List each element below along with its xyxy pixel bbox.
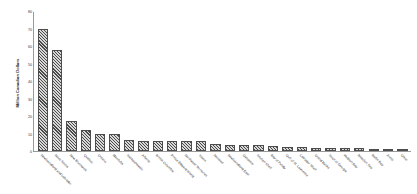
- x-label-slot: Hudson Bay: [337, 153, 351, 194]
- x-label-slot: Beaufort Sea: [352, 153, 366, 194]
- y-tick-label: 20: [18, 115, 32, 119]
- x-label-slot: Northwest Territories: [179, 153, 193, 194]
- y-tick-label: 50: [18, 63, 32, 67]
- x-label-slot: Baffin Bay: [366, 153, 380, 194]
- bar-chart-figure: Million Canadian Dollars 010203040506070…: [0, 0, 417, 194]
- bar[interactable]: [297, 147, 307, 151]
- bar[interactable]: [239, 145, 249, 151]
- x-label-slot: Manitoba: [107, 153, 121, 194]
- x-label-slot: Labrador Shelf: [294, 153, 308, 194]
- bar[interactable]: [196, 141, 206, 151]
- bar-slot: [179, 12, 193, 151]
- bar-slot: [208, 12, 222, 151]
- bar-slot: [50, 12, 64, 151]
- bar-slot: [395, 12, 409, 151]
- bar-slot: [93, 12, 107, 151]
- x-label-slot: Arctic: [381, 153, 395, 194]
- x-label-slot: Ontario: [92, 153, 106, 194]
- x-label-slot: Prince Edward Island: [164, 153, 178, 194]
- bar-slot: [136, 12, 150, 151]
- bar[interactable]: [397, 149, 407, 151]
- bar[interactable]: [167, 141, 177, 151]
- x-tick-label: Alberta: [140, 154, 150, 164]
- x-label-slot: New Brunswick: [63, 153, 77, 194]
- bar[interactable]: [268, 146, 278, 151]
- x-label-slot: Other: [395, 153, 409, 194]
- bar[interactable]: [52, 50, 62, 151]
- x-label-slot: Newfoundland East: [222, 153, 236, 194]
- x-label-slot: Grand Banks: [309, 153, 323, 194]
- x-label-slot: Gulf of St. Lawrence: [280, 153, 294, 194]
- bar-slot: [79, 12, 93, 151]
- bar-slot: [36, 12, 50, 151]
- x-label-slot: Bay of Fundy: [265, 153, 279, 194]
- bar[interactable]: [354, 148, 364, 151]
- bar-slot: [237, 12, 251, 151]
- bar-slot: [309, 12, 323, 151]
- bar[interactable]: [210, 144, 220, 151]
- y-tick-label: 40: [18, 80, 32, 84]
- bar[interactable]: [81, 130, 91, 151]
- x-tick-label: Arctic: [385, 154, 393, 162]
- x-label-slot: Nova Scotia: [49, 153, 63, 194]
- bar-slot: [165, 12, 179, 151]
- bar-slot: [381, 12, 395, 151]
- bar-slot: [366, 12, 380, 151]
- bar-slot: [352, 12, 366, 151]
- bar-slot: [107, 12, 121, 151]
- bar[interactable]: [153, 141, 163, 151]
- y-tick-label: 30: [18, 98, 32, 102]
- bars-layer: [34, 12, 411, 151]
- bar-slot: [295, 12, 309, 151]
- bar-slot: [280, 12, 294, 151]
- bar[interactable]: [181, 141, 191, 151]
- bar-slot: [64, 12, 78, 151]
- x-label-slot: British Columbia: [150, 153, 164, 194]
- x-axis-tick-labels: Newfoundland and LabradorNova ScotiaNew …: [33, 153, 411, 194]
- bar-slot: [251, 12, 265, 151]
- bar[interactable]: [253, 145, 263, 151]
- bar[interactable]: [38, 29, 48, 151]
- bar[interactable]: [369, 149, 379, 151]
- x-label-slot: Gaspesie: [236, 153, 250, 194]
- y-tick-label: 0: [18, 150, 32, 154]
- bar-slot: [223, 12, 237, 151]
- bar[interactable]: [325, 148, 335, 151]
- x-tick-label: Other: [400, 154, 408, 162]
- x-label-slot: Scotian Shelf: [251, 153, 265, 194]
- y-axis-tick-labels: 01020304050607080: [18, 12, 32, 152]
- bar[interactable]: [340, 148, 350, 151]
- x-label-slot: Saskatchewan: [121, 153, 135, 194]
- bar[interactable]: [138, 141, 148, 151]
- x-label-slot: Yukon: [193, 153, 207, 194]
- bar-slot: [122, 12, 136, 151]
- x-tick-label: Ontario: [97, 154, 107, 164]
- bar-slot: [323, 12, 337, 151]
- x-label-slot: Nunavut: [208, 153, 222, 194]
- bar[interactable]: [282, 147, 292, 151]
- bar-slot: [194, 12, 208, 151]
- bar-slot: [266, 12, 280, 151]
- plot-area: [33, 12, 411, 152]
- y-tick-label: 10: [18, 133, 32, 137]
- x-tick-label: Yukon: [198, 154, 207, 163]
- bar[interactable]: [124, 140, 134, 151]
- x-label-slot: Newfoundland and Labrador: [35, 153, 49, 194]
- bar[interactable]: [383, 149, 393, 151]
- x-label-slot: Alberta: [135, 153, 149, 194]
- bar[interactable]: [109, 134, 119, 151]
- bar[interactable]: [311, 148, 321, 151]
- bar[interactable]: [66, 121, 76, 151]
- y-tick-label: 70: [18, 28, 32, 32]
- x-label-slot: Quebec: [78, 153, 92, 194]
- y-tick-label: 60: [18, 45, 32, 49]
- bar[interactable]: [95, 134, 105, 151]
- x-label-slot: Strait of Georgia: [323, 153, 337, 194]
- bar-slot: [151, 12, 165, 151]
- y-tick-label: 80: [18, 10, 32, 14]
- bar[interactable]: [225, 145, 235, 151]
- bar-slot: [338, 12, 352, 151]
